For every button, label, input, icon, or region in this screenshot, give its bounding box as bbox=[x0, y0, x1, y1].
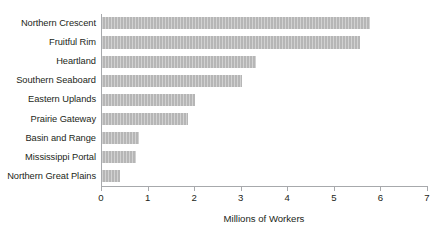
x-axis-tick-label: 2 bbox=[179, 192, 209, 203]
bar bbox=[102, 17, 370, 29]
category-label: Fruitful Rim bbox=[0, 33, 96, 52]
bar-chart: Northern CrescentFruitful RimHeartlandSo… bbox=[0, 0, 444, 245]
category-label: Northern Crescent bbox=[0, 14, 96, 33]
x-axis-line bbox=[101, 186, 427, 187]
x-axis-tick bbox=[334, 186, 335, 191]
x-axis-tick-label: 7 bbox=[412, 192, 442, 203]
bar bbox=[102, 132, 139, 144]
x-axis-tick-label: 0 bbox=[86, 192, 116, 203]
x-axis-tick-label: 4 bbox=[272, 192, 302, 203]
x-axis-tick-label: 5 bbox=[319, 192, 349, 203]
category-label: Southern Seaboard bbox=[0, 71, 96, 90]
x-axis-tick bbox=[380, 186, 381, 191]
category-axis-labels: Northern CrescentFruitful RimHeartlandSo… bbox=[0, 14, 96, 186]
x-axis-tick bbox=[287, 186, 288, 191]
bar bbox=[102, 170, 120, 182]
bar bbox=[102, 151, 136, 163]
x-axis-tick bbox=[194, 186, 195, 191]
category-label: Eastern Uplands bbox=[0, 90, 96, 109]
x-axis-tick-label: 6 bbox=[365, 192, 395, 203]
x-axis-tick bbox=[241, 186, 242, 191]
x-axis-title: Millions of Workers bbox=[101, 213, 427, 224]
category-label: Mississippi Portal bbox=[0, 148, 96, 167]
bar bbox=[102, 113, 188, 125]
x-axis-tick bbox=[427, 186, 428, 191]
x-axis-tick-label: 3 bbox=[226, 192, 256, 203]
bar bbox=[102, 36, 360, 48]
bar bbox=[102, 56, 256, 68]
category-label: Prairie Gateway bbox=[0, 110, 96, 129]
x-axis-tick-label: 1 bbox=[133, 192, 163, 203]
x-axis-tick bbox=[148, 186, 149, 191]
category-label: Heartland bbox=[0, 52, 96, 71]
plot-area: 01234567 bbox=[101, 14, 427, 186]
category-label: Northern Great Plains bbox=[0, 167, 96, 186]
bar bbox=[102, 94, 195, 106]
bar bbox=[102, 75, 242, 87]
x-axis-tick bbox=[101, 186, 102, 191]
category-label: Basin and Range bbox=[0, 129, 96, 148]
